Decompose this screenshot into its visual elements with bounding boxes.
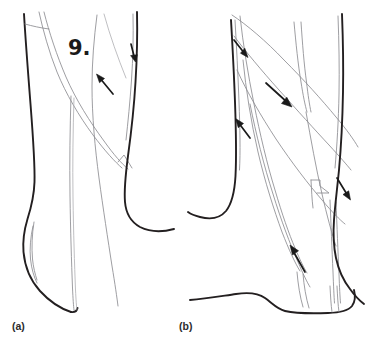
figure-background [0,0,371,349]
figure-number-label: 9. [68,36,91,60]
anatomical-line-drawing: 9. [0,0,371,349]
panel-label-a: (a) [12,320,25,332]
panel-label-b: (b) [179,320,192,332]
figure-container: 9. [0,0,371,349]
